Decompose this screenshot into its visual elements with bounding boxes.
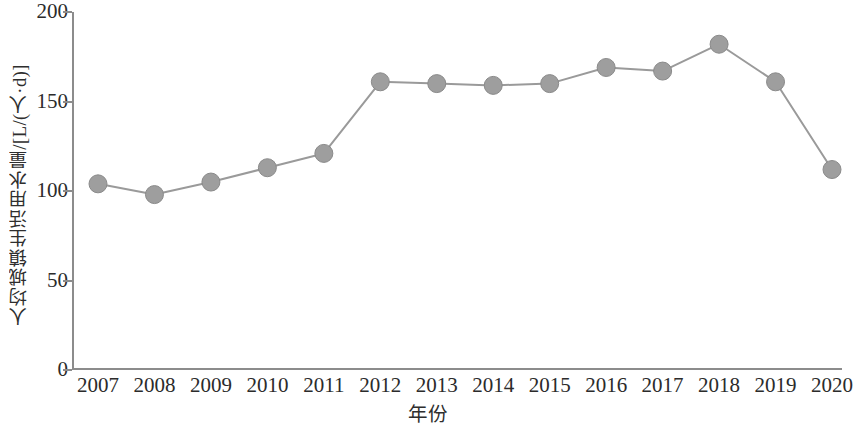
data-point-marker [315, 144, 333, 162]
plot-area [72, 12, 842, 370]
data-point-marker [541, 75, 559, 93]
data-point-marker [597, 58, 615, 76]
y-axis-tick-label: 100 [24, 180, 68, 201]
y-axis-tick-mark [63, 280, 72, 282]
data-point-marker [710, 35, 728, 53]
y-axis-tick-mark [63, 11, 72, 13]
data-point-marker [654, 62, 672, 80]
data-point-marker [202, 173, 220, 191]
data-point-marker [371, 73, 389, 91]
data-point-marker [428, 75, 446, 93]
line-chart-figure: 人均城镇生活用水量/[L/(人·d)] 050100150200 2007200… [0, 0, 855, 429]
series-line [98, 44, 832, 194]
x-axis-title: 年份 [0, 398, 855, 427]
y-axis-tick-mark [63, 101, 72, 103]
data-point-marker [258, 159, 276, 177]
y-axis-tick-label: 50 [24, 270, 68, 291]
y-axis-tick-labels: 050100150200 [16, 0, 68, 429]
data-point-marker [89, 175, 107, 193]
data-point-marker [767, 73, 785, 91]
data-point-marker [823, 161, 841, 179]
data-series-group [72, 12, 842, 370]
y-axis-tick-mark [63, 369, 72, 371]
y-axis-tick-label: 200 [24, 1, 68, 22]
y-axis-tick-label: 150 [24, 91, 68, 112]
data-point-marker [145, 186, 163, 204]
x-axis-tick-label: 2020 [792, 374, 855, 396]
y-axis-tick-mark [63, 190, 72, 192]
data-point-marker [484, 76, 502, 94]
